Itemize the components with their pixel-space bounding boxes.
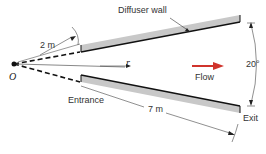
upper-diffuser-wall [81,15,240,52]
wall-length-label: 7 m [148,105,163,114]
entrance-label: Entrance [68,96,104,105]
lower-dashed-line [14,64,80,82]
angle-label: 20° [246,60,260,69]
diffuser-diagram [0,0,266,154]
diffuser-wall-label: Diffuser wall [118,6,167,15]
origin-point [12,62,17,67]
entrance-arc [72,27,78,45]
entrance-distance-label: 2 m [40,41,55,50]
radius-line [16,64,125,67]
radius-label: r [126,58,130,68]
exit-label: Exit [243,114,258,123]
origin-label: O [9,72,16,82]
flow-label: Flow [195,73,214,82]
